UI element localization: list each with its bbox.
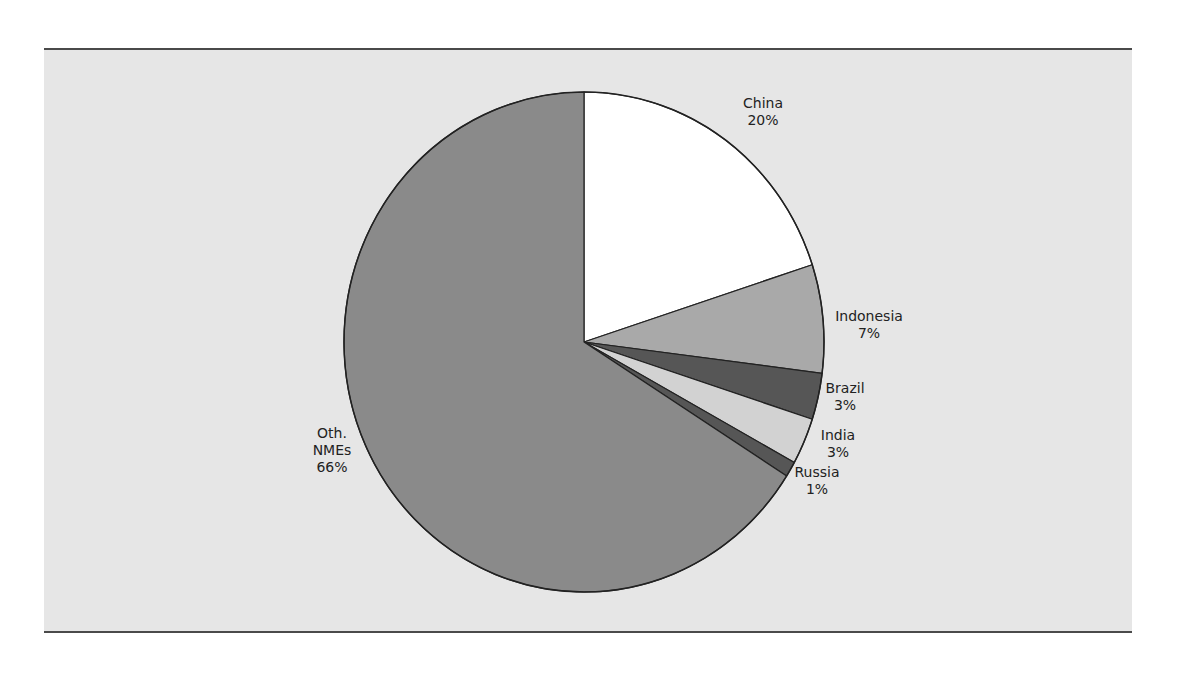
- slice-label-oth-nmes: Oth.NMEs66%: [313, 425, 352, 476]
- slice-label-china: China20%: [743, 95, 783, 129]
- slice-label-russia: Russia1%: [794, 464, 839, 498]
- slice-percent: 20%: [743, 112, 783, 129]
- pie-slices: [344, 92, 824, 592]
- slice-percent: 1%: [794, 481, 839, 498]
- slice-label-brazil: Brazil3%: [825, 380, 864, 414]
- slice-label-india: India3%: [821, 427, 855, 461]
- slice-name: China: [743, 95, 783, 112]
- slice-name: Brazil: [825, 380, 864, 397]
- slice-name: Russia: [794, 464, 839, 481]
- slice-name: NMEs: [313, 442, 352, 459]
- pie-chart: [0, 0, 1180, 680]
- slice-percent: 66%: [313, 459, 352, 476]
- slice-label-indonesia: Indonesia7%: [835, 308, 903, 342]
- slice-name: Oth.: [313, 425, 352, 442]
- slice-percent: 3%: [825, 397, 864, 414]
- slice-percent: 7%: [835, 325, 903, 342]
- slice-name: Indonesia: [835, 308, 903, 325]
- slice-percent: 3%: [821, 444, 855, 461]
- slice-name: India: [821, 427, 855, 444]
